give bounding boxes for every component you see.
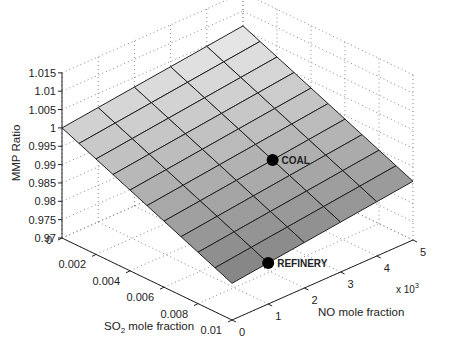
y-tick-mark <box>341 272 345 274</box>
x-tick-label: 0.01 <box>201 324 222 336</box>
x-tick-label: 0.004 <box>92 275 120 287</box>
y-tick-label: 0 <box>239 326 245 338</box>
surface-mesh <box>62 26 413 283</box>
z-tick-label: 1.005 <box>28 104 56 116</box>
x-tick-label: 0.006 <box>126 291 154 303</box>
y-tick-label: 1 <box>275 310 281 322</box>
x-tick-mark <box>228 320 232 322</box>
y-tick-mark <box>268 304 272 306</box>
x-tick-label: 0 <box>46 234 52 246</box>
y-tick-label: 5 <box>420 246 426 258</box>
y-tick-label: 2 <box>311 294 317 306</box>
x-tick-mark <box>92 254 96 256</box>
y-axis-title: NO mole fraction <box>318 306 404 318</box>
marker-label-refinery: REFINERY <box>277 258 328 269</box>
y-tick-mark <box>232 320 236 322</box>
z-tick-label: 0.985 <box>28 177 56 189</box>
x-tick-mark <box>194 304 198 306</box>
x-tick-mark <box>160 287 164 289</box>
z-tick-label: 0.995 <box>28 140 56 152</box>
z-tick-label: 1.01 <box>35 85 56 97</box>
z-tick-label: 1.015 <box>28 67 56 79</box>
y-tick-mark <box>413 240 417 242</box>
marker-label-coal: COAL <box>282 155 310 166</box>
y-axis-multiplier: x 103 <box>396 282 419 295</box>
surface-chart: 0.970.9750.980.9850.990.99511.0051.011.0… <box>0 0 453 350</box>
y-tick-label: 4 <box>384 262 390 274</box>
marker-coal <box>267 154 279 166</box>
z-tick-label: 0.975 <box>28 214 56 226</box>
multiplier-base: x 10 <box>396 284 415 295</box>
z-tick-label: 0.98 <box>35 195 56 207</box>
y-tick-mark <box>377 256 381 258</box>
z-tick-label: 0.99 <box>35 159 56 171</box>
x-axis-title-base: SO <box>104 320 121 332</box>
marker-refinery <box>262 257 274 269</box>
x-tick-label: 0.002 <box>58 258 86 270</box>
y-tick-label: 3 <box>348 278 354 290</box>
z-axis-title: MMP Ratio <box>10 125 22 182</box>
x-tick-label: 0.008 <box>160 308 188 320</box>
x-tick-mark <box>126 271 130 273</box>
multiplier-exponent: 3 <box>415 282 419 289</box>
x-axis-title-rest: mole fraction <box>125 320 194 332</box>
z-tick-label: 1 <box>50 122 56 134</box>
x-axis-title: SO2 mole fraction <box>104 320 194 335</box>
y-tick-mark <box>304 288 308 290</box>
